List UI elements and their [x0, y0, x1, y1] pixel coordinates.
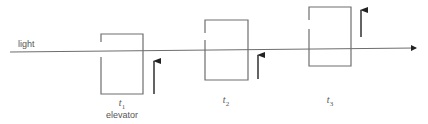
light-label: light — [18, 39, 35, 49]
elevator-box — [309, 7, 351, 66]
elevator-caption: elevator — [106, 110, 138, 120]
elevator-light-diagram: light t1elevatort2t3 — [0, 0, 428, 124]
time-label-t1: t1 — [119, 97, 126, 111]
elevator-frame-t1: t1elevator — [101, 34, 154, 120]
elevator-box — [101, 34, 143, 94]
elevator-frame-t2: t2 — [205, 20, 258, 108]
time-label-t2: t2 — [223, 94, 230, 108]
time-label-t3: t3 — [327, 94, 334, 108]
light-beam — [10, 48, 416, 52]
elevator-frame-t3: t3 — [309, 7, 361, 108]
